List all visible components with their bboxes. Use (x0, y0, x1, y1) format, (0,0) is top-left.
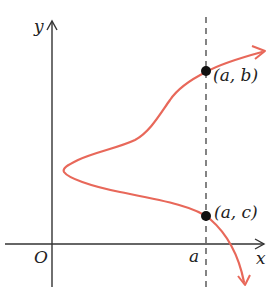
origin-label: O (34, 247, 48, 267)
point-a-c (201, 211, 211, 221)
y-axis (47, 21, 57, 287)
x-axis-label: x (256, 248, 266, 268)
graph-canvas: y x O a (a, b) (a, c) (0, 0, 274, 287)
point-a-c-label: (a, c) (214, 202, 258, 222)
point-a-b (201, 66, 211, 76)
y-axis-label: y (33, 16, 44, 36)
point-a-b-label: (a, b) (213, 65, 258, 85)
a-tick-label: a (189, 246, 199, 266)
